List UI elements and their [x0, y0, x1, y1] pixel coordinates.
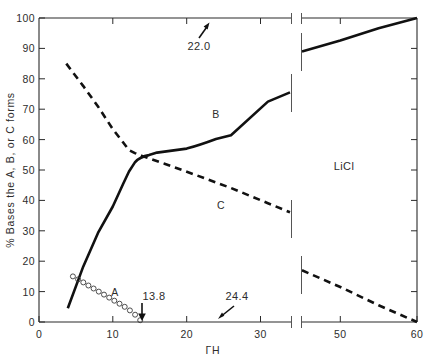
y-axis-tick-labels: 0 10 20 30 40 50 60 70 80 90 100	[16, 12, 35, 328]
x-axis-ticks	[39, 18, 417, 322]
annotation-label-licl: LiCl	[334, 160, 355, 172]
curve-label-a: A	[111, 286, 119, 298]
y-axis-title: % Bases the A, B, or C forms	[4, 92, 16, 248]
x-tick-label-50: 50	[334, 328, 346, 340]
curve-c-break-marks	[292, 200, 302, 294]
annotation-label-24-4: 24.4	[225, 290, 248, 302]
curve-a-markers	[70, 274, 142, 323]
chart-svg: 0 10 20 30 40 50 60 70 80 90 100	[0, 0, 426, 362]
curve-b-break-marks	[292, 33, 302, 112]
y-tick-label-80: 80	[23, 73, 35, 85]
axis-break-marks	[291, 13, 302, 328]
x-tick-label-30: 30	[254, 328, 266, 340]
y-tick-label-100: 100	[16, 12, 35, 24]
curve-c-right	[302, 270, 417, 322]
arrow-down-left-icon	[218, 313, 224, 320]
x-axis-title: ΓH	[206, 344, 221, 356]
y-tick-label-0: 0	[29, 316, 35, 328]
x-tick-label-20: 20	[180, 328, 192, 340]
y-tick-label-10: 10	[23, 286, 35, 298]
y-tick-label-90: 90	[23, 42, 35, 54]
y-tick-label-60: 60	[23, 134, 35, 146]
y-tick-label-50: 50	[23, 164, 35, 176]
x-tick-label-60: 60	[411, 328, 423, 340]
curve-c-left	[66, 64, 290, 213]
y-tick-label-40: 40	[23, 194, 35, 206]
annotation-label-22-0: 22.0	[187, 40, 210, 52]
chart-figure: 0 10 20 30 40 50 60 70 80 90 100	[0, 0, 426, 362]
x-tick-label-10: 10	[107, 328, 119, 340]
curve-b-left	[68, 92, 290, 308]
annotation-label-13-8: 13.8	[142, 290, 165, 302]
y-tick-label-30: 30	[23, 225, 35, 237]
x-axis-tick-labels: 0 10 20 30 50 60	[36, 328, 423, 340]
arrow-up-icon	[204, 23, 210, 30]
curve-label-c: C	[217, 199, 225, 211]
curve-b-right	[302, 18, 417, 51]
annotation-13-8: 13.8	[138, 290, 165, 321]
annotation-24-4: 24.4	[218, 290, 249, 319]
y-tick-label-70: 70	[23, 103, 35, 115]
plot-frame	[39, 18, 417, 322]
arrow-down-icon	[138, 314, 146, 322]
curve-label-b: B	[212, 108, 220, 120]
x-tick-label-0: 0	[36, 328, 42, 340]
y-axis-ticks	[39, 18, 417, 322]
annotation-22-0: 22.0	[187, 23, 210, 53]
y-tick-label-20: 20	[23, 255, 35, 267]
